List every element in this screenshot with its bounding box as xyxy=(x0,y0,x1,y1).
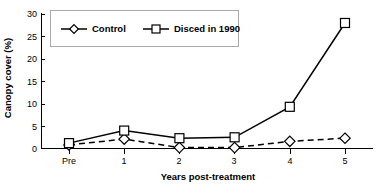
square-marker-icon xyxy=(175,134,184,143)
y-tick-label: 5 xyxy=(32,122,37,132)
square-marker-icon xyxy=(285,102,294,111)
diamond-marker-icon xyxy=(229,142,239,152)
x-tick-label: 3 xyxy=(231,156,236,166)
legend-label-control: Control xyxy=(92,23,126,34)
diamond-marker-icon xyxy=(174,142,184,152)
square-marker-icon xyxy=(65,139,74,148)
y-axis-ticks: 30 25 20 15 10 5 0 xyxy=(27,9,45,154)
x-axis-ticks: Pre 1 2 3 4 5 xyxy=(62,149,348,166)
diamond-marker-icon xyxy=(285,136,295,146)
series-line-control xyxy=(69,138,345,147)
chart-legend: Control Disced in 1990 xyxy=(51,11,241,47)
y-tick-label: 30 xyxy=(27,9,37,19)
x-tick-label: 1 xyxy=(121,156,126,166)
x-axis-title: Years post-treatment xyxy=(161,171,256,182)
y-tick-label: 25 xyxy=(27,32,37,42)
y-tick-label: 15 xyxy=(27,77,37,87)
x-tick-label: 4 xyxy=(287,156,292,166)
x-tick-label: 5 xyxy=(342,156,347,166)
square-marker-icon xyxy=(341,18,350,27)
square-marker-icon xyxy=(230,133,239,142)
y-axis-title: Canopy cover (%) xyxy=(2,38,13,118)
legend-entry-disced: Disced in 1990 xyxy=(143,23,240,34)
diamond-marker-icon xyxy=(340,133,350,143)
legend-label-disced: Disced in 1990 xyxy=(174,23,240,34)
chart-plot-area: Canopy cover (%) 30 25 20 15 10 5 0 xyxy=(0,0,379,184)
x-tick-label: Pre xyxy=(62,156,76,166)
y-tick-label: 20 xyxy=(27,54,37,64)
y-tick-label: 0 xyxy=(32,144,37,154)
y-tick-label: 10 xyxy=(27,99,37,109)
square-marker-icon xyxy=(152,25,160,33)
square-marker-icon xyxy=(120,126,129,135)
canopy-cover-line-chart: Canopy cover (%) 30 25 20 15 10 5 0 xyxy=(0,0,379,184)
x-tick-label: 2 xyxy=(176,156,181,166)
